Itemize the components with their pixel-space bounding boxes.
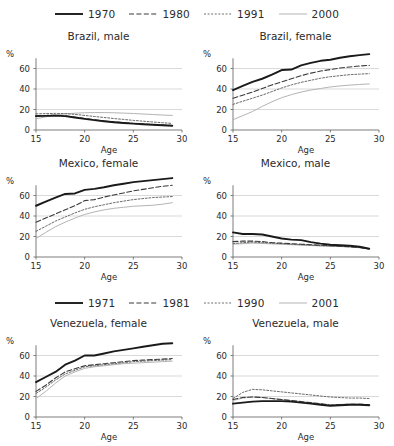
- x-tick-label: 25: [128, 134, 139, 144]
- y-tick-label: 20: [4, 392, 30, 402]
- series-line-1990: [36, 360, 172, 394]
- series-line-1970: [36, 178, 172, 206]
- chart-panel-brazil-female: Brazil, female%020406015202530Age: [197, 30, 394, 158]
- legend-item-1981[interactable]: 1981: [129, 297, 190, 309]
- y-tick-label: 0: [201, 125, 227, 135]
- y-tick-label: 20: [201, 105, 227, 115]
- x-tick-label: 15: [228, 261, 239, 271]
- series-line-1970: [233, 54, 369, 90]
- x-tick-label: 30: [374, 261, 385, 271]
- x-tick-label: 30: [374, 134, 385, 144]
- legend-item-1971[interactable]: 1971: [55, 297, 116, 309]
- legend-line-icon: [204, 298, 232, 308]
- plot-area: [0, 30, 197, 158]
- chart-panel-mexico-female: Mexico, female%020406015202530Age: [0, 157, 197, 285]
- y-tick-label: 60: [4, 64, 30, 74]
- x-tick-label: 20: [276, 134, 287, 144]
- y-tick-label: 40: [4, 371, 30, 381]
- series-line-1970: [233, 232, 369, 248]
- plot-area: [0, 317, 197, 445]
- x-tick-label: 25: [128, 421, 139, 431]
- x-tick-label: 30: [177, 421, 188, 431]
- x-tick-label: 20: [276, 421, 287, 431]
- y-tick-label: 40: [201, 371, 227, 381]
- x-tick-label: 25: [325, 134, 336, 144]
- legend-item-1970[interactable]: 1970: [55, 8, 116, 20]
- x-axis-title: Age: [298, 145, 314, 155]
- x-tick-label: 20: [276, 261, 287, 271]
- y-tick-label: 0: [201, 412, 227, 422]
- x-tick-label: 25: [128, 261, 139, 271]
- legend-top: 1970198019912000: [0, 8, 394, 20]
- x-tick-label: 25: [325, 261, 336, 271]
- y-tick-label: 40: [201, 211, 227, 221]
- y-tick-label: 60: [201, 191, 227, 201]
- legend-line-icon: [279, 9, 307, 19]
- x-tick-label: 15: [228, 134, 239, 144]
- legend-label: 1970: [88, 8, 116, 20]
- x-axis-title: Age: [298, 272, 314, 282]
- legend-label: 1971: [88, 297, 116, 309]
- legend-bottom: 1971198119902001: [0, 297, 394, 309]
- series-line-1980: [36, 185, 172, 222]
- x-tick-label: 20: [79, 134, 90, 144]
- legend-item-1991[interactable]: 1991: [204, 8, 265, 20]
- legend-line-icon: [279, 298, 307, 308]
- x-tick-label: 30: [374, 421, 385, 431]
- chart-panel-brazil-male: Brazil, male%020406015202530Age: [0, 30, 197, 158]
- legend-line-icon: [55, 9, 83, 19]
- y-tick-label: 60: [201, 64, 227, 74]
- chart-panel-mexico-male: Mexico, male%020406015202530Age: [197, 157, 394, 285]
- legend-label: 1990: [237, 297, 265, 309]
- y-tick-label: 20: [4, 105, 30, 115]
- y-tick-label: 60: [201, 351, 227, 361]
- series-line-1981: [36, 359, 172, 392]
- y-tick-label: 0: [201, 252, 227, 262]
- x-axis-title: Age: [101, 432, 117, 442]
- x-tick-label: 20: [79, 261, 90, 271]
- y-tick-label: 40: [4, 84, 30, 94]
- x-tick-label: 30: [177, 134, 188, 144]
- legend-item-1980[interactable]: 1980: [129, 8, 190, 20]
- y-tick-label: 20: [201, 392, 227, 402]
- legend-line-icon: [55, 298, 83, 308]
- x-axis-title: Age: [101, 272, 117, 282]
- plot-area: [197, 30, 394, 158]
- y-tick-label: 20: [4, 232, 30, 242]
- legend-line-icon: [129, 9, 157, 19]
- figure-root: 19701980199120001971198119902001Brazil, …: [0, 0, 394, 446]
- legend-item-2001[interactable]: 2001: [279, 297, 340, 309]
- legend-item-1990[interactable]: 1990: [204, 297, 265, 309]
- y-tick-label: 60: [4, 191, 30, 201]
- x-tick-label: 15: [228, 421, 239, 431]
- plot-area: [197, 157, 394, 285]
- legend-label: 1991: [237, 8, 265, 20]
- series-line-1971: [233, 401, 369, 406]
- legend-label: 2001: [312, 297, 340, 309]
- x-tick-label: 30: [177, 261, 188, 271]
- chart-panel-venezuela-male: Venezuela, male%020406015202530Age: [197, 317, 394, 445]
- plot-area: [197, 317, 394, 445]
- legend-label: 1980: [162, 8, 190, 20]
- x-axis-title: Age: [298, 432, 314, 442]
- x-tick-label: 15: [31, 261, 42, 271]
- x-tick-label: 25: [325, 421, 336, 431]
- y-tick-label: 60: [4, 351, 30, 361]
- chart-panel-venezuela-female: Venezuela, female%020406015202530Age: [0, 317, 197, 445]
- x-axis-title: Age: [101, 145, 117, 155]
- legend-line-icon: [204, 9, 232, 19]
- legend-line-icon: [129, 298, 157, 308]
- series-line-2001: [36, 361, 172, 398]
- x-tick-label: 15: [31, 134, 42, 144]
- plot-area: [0, 157, 197, 285]
- y-tick-label: 20: [201, 232, 227, 242]
- y-tick-label: 40: [4, 211, 30, 221]
- legend-label: 1981: [162, 297, 190, 309]
- y-tick-label: 0: [4, 412, 30, 422]
- y-tick-label: 0: [4, 252, 30, 262]
- y-tick-label: 0: [4, 125, 30, 135]
- legend-label: 2000: [312, 8, 340, 20]
- legend-item-2000[interactable]: 2000: [279, 8, 340, 20]
- x-tick-label: 15: [31, 421, 42, 431]
- x-tick-label: 20: [79, 421, 90, 431]
